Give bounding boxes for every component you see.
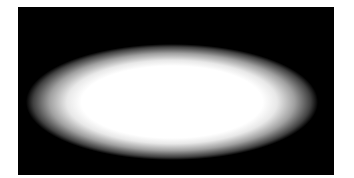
- black-background-frame: [18, 7, 334, 175]
- white-blurred-ellipse: [18, 7, 334, 175]
